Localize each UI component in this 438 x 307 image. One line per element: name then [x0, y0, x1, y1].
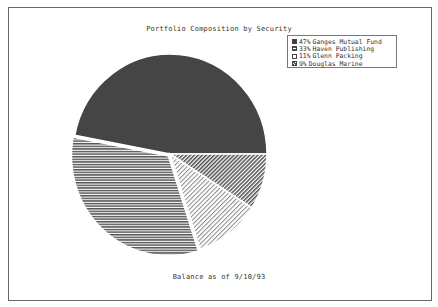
swatch-horizontal-lines-icon	[292, 46, 297, 51]
legend-percent: 9%	[299, 60, 307, 68]
legend-label: Douglas Marine	[309, 60, 363, 68]
chart-footer: Balance as of 9/10/93	[0, 273, 438, 281]
swatch-diagonal-dense-icon	[292, 61, 297, 66]
swatch-diagonal-light-icon	[292, 54, 297, 59]
legend-item: 9% Douglas Marine	[292, 60, 393, 67]
slice-ganges	[75, 54, 267, 154]
swatch-solid-icon	[292, 39, 297, 44]
chart-legend: 47% Ganges Mutual Fund 33% Haven Publish…	[287, 35, 397, 68]
